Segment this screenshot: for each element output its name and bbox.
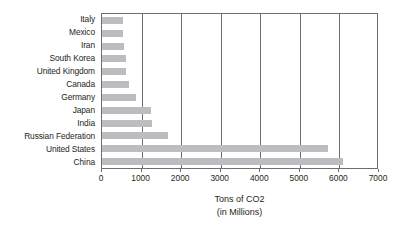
bar-slot [102, 52, 377, 65]
axis-title: Tons of CO2 (in Millions) [101, 193, 378, 219]
bar [102, 145, 328, 152]
tick-label: 4000 [250, 174, 269, 182]
category-label: India [0, 117, 99, 130]
tick-mark [299, 169, 300, 172]
category-label: China [0, 156, 99, 169]
bar-slot [102, 104, 377, 117]
bar-slot [102, 14, 377, 27]
bar-slot [102, 78, 377, 91]
tick-label: 7000 [369, 174, 388, 182]
category-axis: ItalyMexicoIranSouth KoreaUnited Kingdom… [0, 13, 99, 169]
bar [102, 68, 126, 75]
bar-slot [102, 129, 377, 142]
bar [102, 132, 168, 139]
category-label: Canada [0, 78, 99, 91]
bar-slot [102, 27, 377, 40]
bar [102, 81, 129, 88]
category-label: Italy [0, 13, 99, 26]
bar-slot [102, 142, 377, 155]
tick-label: 2000 [171, 174, 190, 182]
bar [102, 120, 152, 127]
bar [102, 30, 123, 37]
category-label: Germany [0, 91, 99, 104]
axis-title-line-1: Tons of CO2 [101, 193, 378, 206]
category-label: Japan [0, 104, 99, 117]
bar [102, 55, 126, 62]
tick-label: 6000 [329, 174, 348, 182]
bar-slot [102, 65, 377, 78]
plot-area [101, 13, 378, 169]
value-axis: 01000200030004000500060007000 [101, 169, 378, 189]
tick-label: 1000 [131, 174, 150, 182]
tick-mark [338, 169, 339, 172]
category-label: United States [0, 143, 99, 156]
bar [102, 17, 123, 24]
tick-mark [101, 169, 102, 172]
bar [102, 94, 136, 101]
bar [102, 107, 151, 114]
bar-slot [102, 155, 377, 168]
bar [102, 158, 343, 165]
category-label: South Korea [0, 52, 99, 65]
tick-mark [220, 169, 221, 172]
category-label: Iran [0, 39, 99, 52]
tick-mark [180, 169, 181, 172]
tick-mark [378, 169, 379, 172]
bar-slot [102, 117, 377, 130]
horizontal-bar-chart: ItalyMexicoIranSouth KoreaUnited Kingdom… [0, 0, 403, 231]
bar [102, 43, 124, 50]
tick-mark [259, 169, 260, 172]
tick-mark [141, 169, 142, 172]
tick-label: 0 [99, 174, 104, 182]
tick-label: 5000 [290, 174, 309, 182]
bar-slot [102, 40, 377, 53]
category-label: Russian Federation [0, 130, 99, 143]
bar-slot [102, 91, 377, 104]
tick-label: 3000 [210, 174, 229, 182]
category-label: Mexico [0, 26, 99, 39]
bar-series [102, 14, 377, 168]
axis-title-line-2: (in Millions) [101, 206, 378, 219]
category-label: United Kingdom [0, 65, 99, 78]
